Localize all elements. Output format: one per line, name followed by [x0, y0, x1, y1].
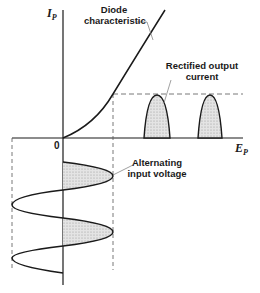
- x-axis-label-sub: P: [243, 148, 248, 157]
- rectified-pulse-1: [144, 95, 170, 138]
- diode-label-line2: characteristic: [84, 15, 144, 26]
- rectified-output-label: Rectified output current: [160, 60, 244, 82]
- y-axis-label: IP: [47, 6, 57, 22]
- y-axis-label-sub: P: [52, 13, 57, 22]
- origin-label: 0: [54, 140, 60, 151]
- diode-label-line1: Diode: [84, 4, 144, 15]
- alternating-label-line1: Alternating: [127, 157, 187, 168]
- rectified-label-line2: current: [160, 71, 244, 82]
- alternating-input-label: Alternating input voltage: [127, 157, 187, 179]
- diode-characteristic-label: Diode characteristic: [84, 4, 144, 26]
- rectified-label-line1: Rectified output: [160, 60, 244, 71]
- rectified-leader-line: [164, 80, 171, 103]
- rectified-pulse-2: [198, 95, 222, 138]
- diagram-canvas: [0, 0, 260, 293]
- alternating-label-line2: input voltage: [127, 168, 187, 179]
- x-axis-label: EP: [235, 141, 248, 157]
- x-axis-label-main: E: [235, 141, 243, 155]
